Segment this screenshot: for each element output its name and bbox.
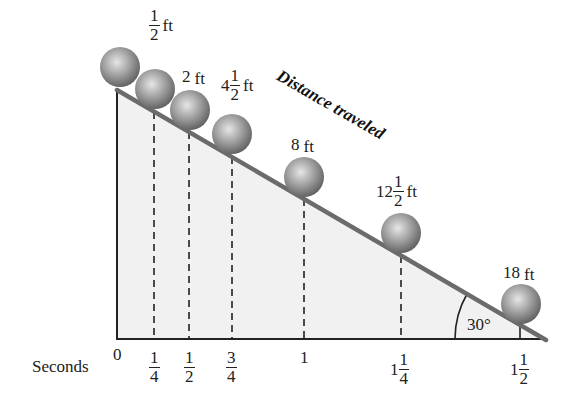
fraction: 12 [393, 173, 404, 209]
ball-t1 [135, 69, 175, 109]
distance-label-12-half: 1212ft [376, 173, 417, 209]
distance-label-4-half: 412ft [221, 67, 253, 103]
tick-quarter: 14 [149, 349, 160, 385]
fraction: 12 [519, 351, 530, 387]
angle-label: 30° [467, 316, 491, 333]
tick-three-quarter: 34 [226, 349, 237, 385]
incline-diagram [0, 0, 572, 415]
ball-t2 [170, 90, 210, 130]
tick-half: 12 [184, 349, 195, 385]
fraction: 34 [226, 349, 237, 385]
ball-t0 [100, 47, 140, 87]
fraction: 12 [230, 67, 241, 103]
distance-label-half: 12ft [149, 7, 173, 43]
ball-t3 [212, 114, 252, 154]
fraction: 14 [149, 349, 160, 385]
distance-label-2: 2ft [182, 68, 205, 87]
ball-t5 [381, 213, 421, 253]
tick-0: 0 [113, 346, 122, 363]
tick-1-quarter: 114 [390, 351, 409, 387]
ball-t6 [501, 284, 541, 324]
fraction: 12 [184, 349, 195, 385]
fraction: 14 [399, 351, 410, 387]
tick-1: 1 [300, 349, 309, 366]
fraction: 12 [149, 7, 160, 43]
axis-label-seconds: Seconds [32, 358, 89, 375]
tick-1-half: 112 [510, 351, 529, 387]
distance-label-18: 18ft [503, 264, 534, 283]
ball-t4 [284, 157, 324, 197]
distance-label-8: 8ft [291, 136, 314, 155]
